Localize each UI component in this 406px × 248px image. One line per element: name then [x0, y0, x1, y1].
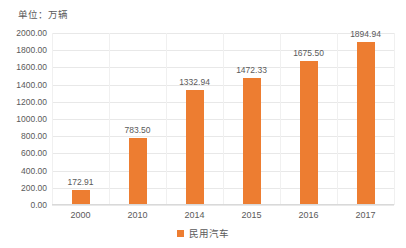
chart-container: 单位：万辆 0.00200.00400.00600.00800.001000.0…: [0, 0, 406, 248]
bar[interactable]: [357, 42, 375, 205]
y-axis-tick-label: 1800.00: [16, 46, 47, 55]
bar-group: 172.912000: [52, 33, 109, 205]
bar-value-label: 783.50: [125, 125, 151, 135]
bar-value-label: 1332.94: [179, 77, 210, 87]
bar[interactable]: [300, 61, 318, 205]
y-axis-tick-label: 600.00: [21, 149, 47, 158]
legend-item-civil-automobiles[interactable]: 民用汽车: [177, 228, 229, 239]
y-axis-tick-label: 2000.00: [16, 29, 47, 38]
unit-caption: 单位：万辆: [18, 9, 68, 21]
bar-value-label: 1894.94: [350, 29, 381, 39]
bar-value-label: 172.91: [68, 177, 94, 187]
gridline: [52, 205, 394, 206]
plot-area: 0.00200.00400.00600.00800.001000.001200.…: [52, 33, 394, 205]
chart-legend: 民用汽车: [0, 228, 406, 239]
legend-item-label: 民用汽车: [189, 228, 229, 239]
bar-group: 1472.332015: [223, 33, 280, 205]
y-axis-tick-label: 1000.00: [16, 115, 47, 124]
y-axis-tick-label: 1200.00: [16, 98, 47, 107]
y-axis-tick-label: 800.00: [21, 132, 47, 141]
x-axis-tick-label: 2014: [184, 210, 204, 221]
x-axis-tick-label: 2017: [355, 210, 375, 221]
bar-group: 1332.942014: [166, 33, 223, 205]
x-axis-tick-label: 2000: [70, 210, 90, 221]
gridline-vertical: [394, 33, 395, 205]
bar-value-label: 1675.50: [293, 48, 324, 58]
x-axis-baseline: [52, 204, 394, 205]
bar[interactable]: [72, 190, 90, 205]
bar-group: 1675.502016: [280, 33, 337, 205]
y-axis-tick-label: 400.00: [21, 166, 47, 175]
x-axis-tick-label: 2016: [298, 210, 318, 221]
x-axis-tick-label: 2010: [127, 210, 147, 221]
bar-value-label: 1472.33: [236, 65, 267, 75]
legend-swatch-icon: [177, 230, 184, 237]
y-axis-tick-label: 200.00: [21, 184, 47, 193]
bar[interactable]: [186, 90, 204, 205]
y-axis-tick-label: 1600.00: [16, 63, 47, 72]
bar[interactable]: [243, 78, 261, 205]
bar-group: 783.502010: [109, 33, 166, 205]
bar-group: 1894.942017: [337, 33, 394, 205]
bar[interactable]: [129, 138, 147, 205]
x-axis-tick-label: 2015: [241, 210, 261, 221]
y-axis-tick-label: 1400.00: [16, 80, 47, 89]
y-axis-tick-label: 0.00: [30, 201, 47, 210]
